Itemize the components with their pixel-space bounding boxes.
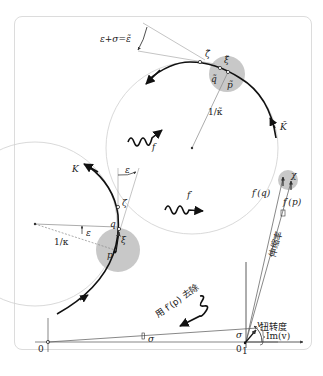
wavy-arrow-f xyxy=(128,130,162,146)
label-im-v: Im(v) xyxy=(266,331,290,341)
diagram-canvas: ε+σ=ε̃ ζ̃ ξ̃ q̃ p̃ 1/κ̃ K̃ f ε xyxy=(0,0,323,376)
label-chi: χ xyxy=(290,170,297,180)
angle-label-top: ε+σ=ε̃ xyxy=(100,34,131,44)
arrow-one-to-v xyxy=(245,330,256,343)
tangent-line-upper xyxy=(143,23,205,60)
point-zeta-tilde xyxy=(198,60,201,63)
map-divide: 用 f′(p) 去除 xyxy=(153,282,208,326)
label-k-tilde: K̃ xyxy=(279,121,288,132)
label-fq: f′(q) xyxy=(251,188,271,198)
tangent-line-lower xyxy=(138,51,215,64)
label-origin-bottom: 0 xyxy=(38,344,44,354)
label-fp: f′(p) xyxy=(282,197,302,207)
label-q-tilde: q̃ xyxy=(211,74,217,84)
label-epsilon-top: ε xyxy=(125,165,130,175)
label-sigma-mid: σ xyxy=(148,334,155,344)
label-epsilon-mid: ε xyxy=(86,228,91,238)
label-p: p xyxy=(107,250,113,260)
label-p-tilde: p̃ xyxy=(227,80,233,90)
right-panel: 0 χ f′(q) f′(p) 伸缩率 扭转度 xyxy=(236,170,303,354)
center-point-top xyxy=(191,147,193,149)
label-q: q xyxy=(110,219,116,229)
point-q xyxy=(117,227,120,230)
left-panel: ε ε 1/κ K ζ q ξ p xyxy=(0,142,140,314)
label-f: f xyxy=(151,142,157,152)
vector-fq xyxy=(246,178,283,342)
label-radius-top: 1/κ̃ xyxy=(208,107,223,117)
point-q-tilde xyxy=(218,66,221,69)
bottom-panel: 0 σ 1 σ v Im(v) xyxy=(35,318,290,356)
point-zeta xyxy=(116,205,119,208)
angle-arc-top xyxy=(138,27,147,50)
label-stretch: 伸缩率 xyxy=(266,230,284,259)
map-f: f xyxy=(128,130,162,152)
radius-line-q xyxy=(35,224,117,227)
label-f-prime: f′ xyxy=(186,190,192,200)
curve-arrow-k xyxy=(84,164,98,172)
center-point-left xyxy=(34,223,36,225)
label-sigma-right: σ xyxy=(236,330,243,340)
label-one: 1 xyxy=(242,346,248,356)
label-zeta-tilde: ζ̃ xyxy=(205,49,211,59)
curve-arrow-top xyxy=(146,70,160,84)
point-p-tilde xyxy=(226,70,229,73)
label-radius-left: 1/κ xyxy=(54,237,69,247)
label-v: v xyxy=(257,319,262,329)
wavy-arrow-f-prime xyxy=(165,206,203,214)
map-f-prime: f′ xyxy=(165,190,203,214)
label-k: K xyxy=(71,164,80,174)
point-p xyxy=(114,251,117,254)
label-divide: 用 f′(p) 去除 xyxy=(153,282,201,320)
point-one xyxy=(244,342,246,344)
osculating-circle-left xyxy=(0,142,117,306)
